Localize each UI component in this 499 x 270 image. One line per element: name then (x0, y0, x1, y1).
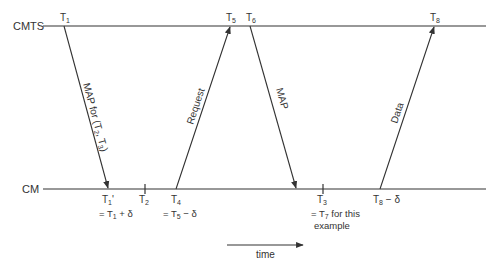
cm-timeline: CM (22, 183, 486, 195)
message-map-second: MAP (250, 26, 296, 188)
message-data: Data (380, 27, 434, 189)
cmts-label: CMTS (13, 20, 44, 32)
note-t3-line2: example (314, 220, 350, 231)
label-t1: T1 (60, 12, 70, 24)
time-axis: time (227, 245, 303, 260)
time-label: time (256, 249, 275, 260)
cm-label: CM (22, 183, 39, 195)
label-t8-minus-delta: T8 − δ (373, 194, 400, 206)
label-t3: T3 (317, 194, 327, 206)
label-t2: T2 (139, 194, 149, 206)
map-label: MAP (274, 87, 291, 111)
message-request: Request (176, 27, 230, 189)
timing-diagram: CMTS CM T1 T5 T6 T8 MAP for (T2, T3) Req… (0, 0, 499, 270)
note-t1-prime: = T1 + δ (99, 208, 133, 220)
message-map-first: MAP for (T2, T3) (64, 26, 110, 188)
label-t1-prime: T1' (102, 194, 114, 206)
note-t4: = T5 − δ (163, 208, 197, 220)
label-t8: T8 (430, 12, 440, 24)
note-t3: = T7 for this (311, 208, 360, 220)
label-t5: T5 (226, 12, 236, 24)
label-t6: T6 (246, 12, 256, 24)
label-t4: T4 (171, 194, 181, 206)
